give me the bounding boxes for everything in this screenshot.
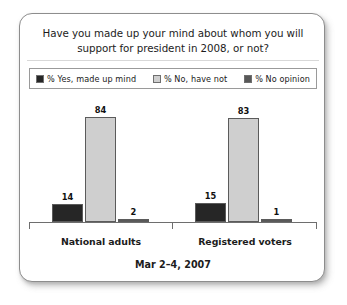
- chart-title-line-2: support for president in 2008, or not?: [32, 41, 314, 56]
- bar-rect: [195, 203, 226, 222]
- legend-label-yes: % Yes, made up mind: [47, 74, 136, 84]
- chart-card: Have you made up your mind about whom yo…: [19, 13, 325, 282]
- bar-registered-voters-series-2[interactable]: 1: [261, 208, 292, 222]
- legend-swatch-icon-no: [153, 75, 161, 83]
- bar-rect: [85, 117, 116, 222]
- legend-item-no-opinion[interactable]: % No opinion: [244, 74, 310, 84]
- bar-group-registered-voters: 15831: [195, 104, 292, 222]
- bar-registered-voters-series-0[interactable]: 15: [195, 192, 226, 222]
- bar-value-label: 15: [205, 192, 217, 201]
- legend-item-yes-made-up-mind[interactable]: % Yes, made up mind: [36, 74, 136, 84]
- bar-value-label: 2: [131, 208, 137, 217]
- axis-tick-right: [316, 222, 317, 229]
- bar-value-label: 83: [238, 107, 250, 116]
- chart-footer-date: Mar 2–4, 2007: [32, 259, 314, 270]
- legend-separator: [27, 60, 319, 61]
- legend-label-no-opinion: % No opinion: [255, 74, 310, 84]
- axis-tick-left: [29, 222, 30, 229]
- chart-title-line-1: Have you made up your mind about whom yo…: [32, 26, 314, 41]
- bar-registered-voters-series-1[interactable]: 83: [228, 107, 259, 222]
- category-label-registered-voters: Registered voters: [173, 236, 317, 247]
- legend-swatch-icon-no-opinion: [244, 75, 252, 83]
- bar-rect: [52, 204, 83, 222]
- legend-item-no-have-not[interactable]: % No, have not: [153, 74, 228, 84]
- chart-legend: % Yes, made up mind % No, have not % No …: [29, 68, 317, 89]
- axis-baseline: [29, 222, 317, 223]
- legend-label-no: % No, have not: [164, 74, 228, 84]
- plot-area: 1484215831: [29, 96, 317, 231]
- bar-rect: [228, 118, 259, 222]
- bar-national-adults-series-1[interactable]: 84: [85, 106, 116, 222]
- bar-value-label: 14: [62, 193, 74, 202]
- bar-value-label: 1: [274, 208, 280, 217]
- legend-swatch-icon-yes: [36, 75, 44, 83]
- bar-national-adults-series-2[interactable]: 2: [118, 208, 149, 222]
- bar-value-label: 84: [95, 106, 107, 115]
- chart-title: Have you made up your mind about whom yo…: [32, 26, 314, 55]
- bar-national-adults-series-0[interactable]: 14: [52, 193, 83, 222]
- axis-tick-middle: [172, 222, 173, 229]
- category-label-national-adults: National adults: [29, 236, 173, 247]
- bar-group-national-adults: 14842: [52, 104, 149, 222]
